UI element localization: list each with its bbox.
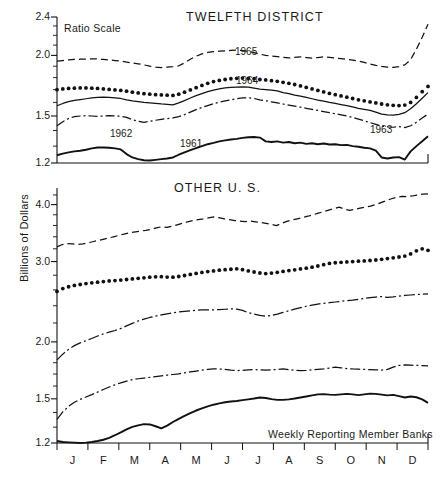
top-series-1961 [57, 136, 428, 160]
x-axis-month-label: N [367, 454, 397, 466]
bottom-series-1962 [57, 365, 428, 419]
x-axis-month-label: J [243, 454, 273, 466]
x-axis-month-label: M [119, 454, 149, 466]
x-axis-month-label: J [212, 454, 242, 466]
y-tick-label: 2.4 [10, 10, 50, 22]
y-tick-label: 3.0 [10, 255, 50, 267]
bottom-series-1963 [57, 294, 428, 360]
y-tick-label: 1.5 [10, 392, 50, 404]
bottom-series-1964 [55, 247, 430, 293]
x-axis-month-label: M [181, 454, 211, 466]
y-tick-label: 1.5 [10, 109, 50, 121]
bottom-series-1961 [57, 394, 428, 443]
series-label-1961: 1961 [180, 138, 202, 149]
figure-root: Billions of Dollars TWELFTH DISTRICT Rat… [0, 0, 442, 479]
x-axis-month-label: O [336, 454, 366, 466]
y-tick-label: 2.0 [10, 48, 50, 60]
chart-canvas [0, 0, 442, 479]
y-tick-label: 2.0 [10, 335, 50, 347]
top-series-1962 [57, 87, 428, 115]
y-tick-label: 1.2 [10, 156, 50, 168]
series-label-1965: 1965 [235, 46, 257, 57]
x-axis-month-label: J [57, 454, 87, 466]
bottom-series-1965 [57, 194, 428, 247]
bottom-axes [51, 188, 428, 443]
month-ticks [57, 443, 428, 450]
x-axis-month-label: A [274, 454, 304, 466]
x-axis-month-label: F [88, 454, 118, 466]
y-tick-label: 4.0 [10, 198, 50, 210]
series-label-1962: 1962 [110, 128, 132, 139]
x-axis-month-label: S [305, 454, 335, 466]
x-axis-month-label: D [398, 454, 428, 466]
x-axis-month-label: A [150, 454, 180, 466]
y-tick-label: 1.2 [10, 436, 50, 448]
series-label-1964: 1964 [236, 75, 258, 86]
series-label-1963: 1963 [370, 124, 392, 135]
